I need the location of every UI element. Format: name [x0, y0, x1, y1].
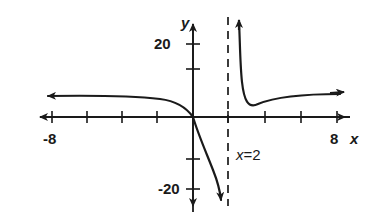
- curve-right-branch: [239, 22, 340, 105]
- asymptote-label-variable: x: [236, 146, 244, 163]
- y-tick-label-20: 20: [154, 36, 171, 51]
- graph-figure: 20 -20 -8 8 y x x=2: [0, 0, 375, 212]
- asymptote-equation-label: x=2: [236, 147, 261, 162]
- curve-left-branch: [48, 96, 193, 117]
- curve-right-branch-right-arrow: [330, 92, 344, 93]
- plot-area: [0, 0, 375, 212]
- x-axis-label: x: [350, 131, 358, 146]
- x-tick-label-negative-8: -8: [43, 131, 56, 146]
- y-axis-label: y: [181, 15, 189, 30]
- x-tick-label-8: 8: [330, 131, 338, 146]
- asymptote-label-value: 2: [252, 146, 260, 163]
- asymptote-label-equals: =: [244, 146, 253, 163]
- y-tick-label-negative-20: -20: [158, 181, 180, 196]
